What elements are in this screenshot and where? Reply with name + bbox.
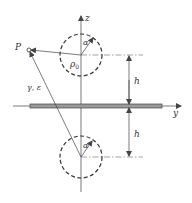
y-axis-label: y xyxy=(172,108,179,118)
medium-label: γ, ε xyxy=(27,83,41,92)
point-p-label: P xyxy=(14,42,22,52)
z-axis-label: z xyxy=(84,13,90,23)
rho-label: ρ0 xyxy=(69,59,79,70)
h-upper-label: h xyxy=(134,76,140,86)
lower-alpha-label: α xyxy=(83,141,89,150)
h-lower-label: h xyxy=(134,129,140,139)
upper-to-p-line xyxy=(31,50,81,55)
thin-plate xyxy=(30,104,162,108)
point-p-marker xyxy=(27,48,31,52)
field-diagram: z y α ρ0 α P γ, ε h h xyxy=(0,0,192,203)
upper-alpha-label: α xyxy=(83,38,89,47)
